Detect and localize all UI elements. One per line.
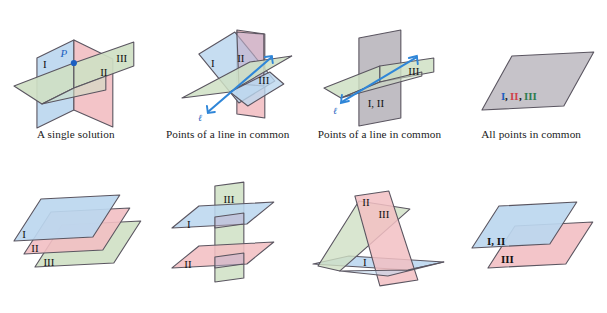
intersection-point-P [71, 60, 77, 66]
plane-label-III: III [378, 208, 389, 220]
panel-coincident-parallel-pair: I, II III No points in common [455, 156, 607, 313]
plane-label-II: II [184, 258, 192, 270]
plane-label-II: II [100, 66, 108, 78]
panel-line-common-three-planes: I II III ℓ Points of a line in common [152, 0, 304, 156]
plane-label-III: III [524, 90, 537, 102]
plane-label-III: III [223, 193, 234, 205]
plane-label-III: III [43, 256, 54, 268]
plane-label-II: II [237, 52, 245, 64]
panel-two-parallel-one-transverse: III I II No points in common [152, 156, 304, 313]
panel-6-diagram: III I II [152, 156, 304, 313]
plane-intersection-figure-grid: P I II III A single solution [0, 0, 607, 313]
plane-label-I: I [363, 256, 367, 268]
panel-three-parallel-planes: I II III No points in common [0, 156, 152, 313]
panel-4-caption: All points in common [455, 128, 607, 140]
panel-3-caption: Points of a line in common [304, 128, 456, 140]
plane-label-I: I [187, 218, 191, 230]
line-label-ell: ℓ [332, 106, 336, 116]
plane-label-comma-1: , [505, 90, 508, 102]
panel-8-diagram: I, II III [455, 156, 607, 313]
panel-line-common-two-coincident: III I, II ℓ Points of a line in common [304, 0, 456, 156]
panel-7-diagram: II III I [304, 156, 456, 313]
plane-label-III: III [501, 253, 514, 265]
plane-label-I-II: I, II [367, 97, 384, 109]
line-label-ell: ℓ [198, 113, 202, 123]
panel-1-caption: A single solution [0, 128, 152, 140]
plane-coincident-gray [482, 52, 594, 110]
plane-label-II: II [31, 242, 39, 254]
plane-label-II: II [362, 196, 370, 208]
plane-label-I: I [211, 57, 215, 69]
plane-label-I: I [22, 228, 26, 240]
panel-single-solution: P I II III A single solution [0, 0, 152, 156]
panel-all-points-common: I , II , III All points in common [455, 0, 607, 156]
plane-label-comma-2: , [519, 90, 522, 102]
plane-label-I-II: I, II [487, 235, 505, 247]
plane-label-II: II [510, 90, 519, 102]
plane-label-III: III [408, 65, 419, 77]
panel-prism-parallel-lines: II III I No points in common [304, 156, 456, 313]
point-label-P: P [60, 47, 68, 59]
plane-label-III: III [258, 74, 269, 86]
panel-2-caption: Points of a line in common [152, 128, 304, 140]
plane-label-III: III [116, 52, 127, 64]
plane-label-I: I [43, 58, 47, 70]
panel-5-diagram: I II III [0, 156, 152, 313]
